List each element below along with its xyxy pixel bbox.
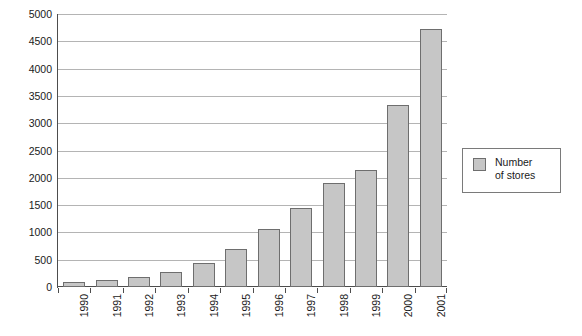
y-tick-label-2000: 2000 <box>6 173 52 184</box>
legend-swatch-number-of-stores <box>473 158 486 171</box>
bar-1994 <box>193 263 215 287</box>
x-tick-1999 <box>350 288 351 293</box>
plot-area <box>58 14 447 287</box>
y-tick-label-5000: 5000 <box>6 9 52 20</box>
bar-1992 <box>128 277 150 287</box>
x-tick-label-1998: 1998 <box>339 294 350 334</box>
x-tick-label-1999: 1999 <box>371 294 382 334</box>
x-tick-label-1996: 1996 <box>274 294 285 334</box>
x-tick-1998 <box>317 288 318 293</box>
x-tick-1994 <box>188 288 189 293</box>
x-axis-labels: 1990199119921993199419951996199719981999… <box>58 294 447 336</box>
x-tick-1990 <box>58 288 59 293</box>
bar-2000 <box>387 105 409 287</box>
y-tick-label-3000: 3000 <box>6 118 52 129</box>
legend-label-line-2: of stores <box>495 169 557 182</box>
x-axis-ticks <box>58 288 447 293</box>
x-tick-1991 <box>90 288 91 293</box>
x-tick-label-1995: 1995 <box>241 294 252 334</box>
bar-chart-figure: 0500100015002000250030003500400045005000… <box>0 0 582 336</box>
y-tick-label-0: 0 <box>6 282 52 293</box>
gridline-4500 <box>58 41 447 42</box>
x-tick-1992 <box>123 288 124 293</box>
bar-1993 <box>160 272 182 287</box>
x-tick-2001 <box>415 288 416 293</box>
bar-1999 <box>355 170 377 287</box>
x-tick-1997 <box>285 288 286 293</box>
legend-label-line-1: Number <box>495 156 557 169</box>
y-tick-label-1500: 1500 <box>6 200 52 211</box>
legend: Number of stores <box>462 148 561 193</box>
gridline-3500 <box>58 96 447 97</box>
y-tick-label-4000: 4000 <box>6 64 52 75</box>
x-tick-label-1992: 1992 <box>144 294 155 334</box>
y-axis-labels: 0500100015002000250030003500400045005000 <box>0 14 52 287</box>
legend-label-number-of-stores: Number of stores <box>495 156 557 182</box>
y-tick-label-1000: 1000 <box>6 227 52 238</box>
x-tick-1995 <box>220 288 221 293</box>
bar-1995 <box>225 249 247 287</box>
y-tick-label-500: 500 <box>6 255 52 266</box>
x-tick-label-1991: 1991 <box>112 294 123 334</box>
x-tick-2000 <box>382 288 383 293</box>
x-tick-label-1990: 1990 <box>79 294 90 334</box>
bar-1996 <box>258 229 280 287</box>
y-tick-label-3500: 3500 <box>6 91 52 102</box>
gridline-5000 <box>58 14 447 15</box>
x-tick-1996 <box>253 288 254 293</box>
bar-2001 <box>420 29 442 287</box>
x-tick-label-1994: 1994 <box>209 294 220 334</box>
bar-1997 <box>290 208 312 287</box>
bar-1991 <box>96 280 118 287</box>
y-tick-label-4500: 4500 <box>6 36 52 47</box>
y-tick-label-2500: 2500 <box>6 146 52 157</box>
x-tick-label-2000: 2000 <box>403 294 414 334</box>
bar-1990 <box>63 282 85 287</box>
gridline-4000 <box>58 69 447 70</box>
x-tick-end <box>446 288 447 293</box>
x-tick-1993 <box>155 288 156 293</box>
x-tick-label-2001: 2001 <box>436 294 447 334</box>
x-tick-label-1993: 1993 <box>176 294 187 334</box>
x-tick-label-1997: 1997 <box>306 294 317 334</box>
bar-1998 <box>323 183 345 287</box>
